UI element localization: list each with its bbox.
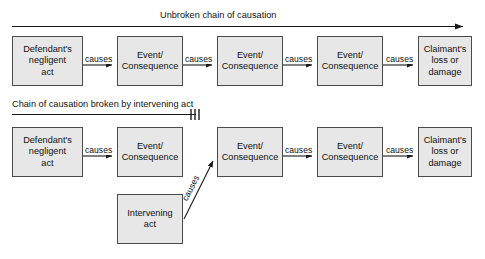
node-label: Event/ Consequence	[122, 141, 179, 163]
edge-label-causes-top-2: causes	[184, 54, 213, 64]
node-label: Intervening act	[127, 208, 172, 230]
node-event-consequence-1: Event/ Consequence	[117, 36, 183, 86]
node-label: Event/ Consequence	[322, 141, 379, 163]
node-event-consequence-5: Event/ Consequence	[217, 127, 283, 177]
causation-diagram: Unbroken chain of causation Defendant's …	[0, 0, 485, 259]
unbroken-chain-caption: Unbroken chain of causation	[160, 10, 276, 20]
edge-label-causes-bottom-2: causes	[284, 145, 313, 155]
node-label: Defendant's negligent act	[23, 44, 72, 78]
node-event-consequence-4: Event/ Consequence	[117, 127, 183, 177]
node-label: Claimant's loss or damage	[424, 44, 467, 78]
node-claimants-loss-bottom: Claimant's loss or damage	[418, 127, 472, 177]
edge-label-causes-bottom-1: causes	[84, 145, 113, 155]
node-defendants-negligent-act-top: Defendant's negligent act	[12, 36, 83, 86]
node-label: Claimant's loss or damage	[424, 135, 467, 169]
node-label: Defendant's negligent act	[23, 135, 72, 169]
node-event-consequence-6: Event/ Consequence	[317, 127, 383, 177]
node-intervening-act: Intervening act	[117, 194, 183, 244]
node-label: Event/ Consequence	[222, 141, 279, 163]
edge-label-causes-top-3: causes	[284, 54, 313, 64]
node-label: Event/ Consequence	[122, 50, 179, 72]
node-event-consequence-3: Event/ Consequence	[317, 36, 383, 86]
node-event-consequence-2: Event/ Consequence	[217, 36, 283, 86]
broken-chain-caption: Chain of causation broken by intervening…	[12, 99, 193, 109]
node-claimants-loss-top: Claimant's loss or damage	[418, 36, 472, 86]
node-defendants-negligent-act-bottom: Defendant's negligent act	[12, 127, 83, 177]
edge-label-causes-top-1: causes	[84, 54, 113, 64]
edge-label-causes-bottom-3: causes	[385, 145, 414, 155]
edge-label-causes-top-4: causes	[385, 54, 414, 64]
node-label: Event/ Consequence	[222, 50, 279, 72]
node-label: Event/ Consequence	[322, 50, 379, 72]
